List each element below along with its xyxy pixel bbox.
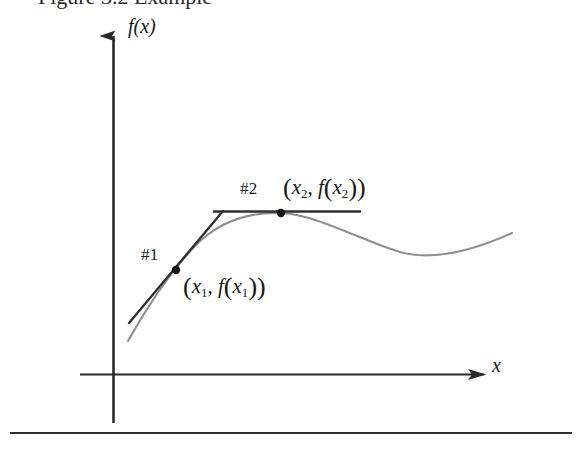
figure-drawing (0, 0, 581, 451)
point-marker-x2 (277, 209, 285, 217)
point-label-2: (x2, f(x2)) (283, 173, 366, 199)
point-label-1: (x1, f(x1)) (183, 272, 266, 298)
y-axis-label: f(x) (128, 16, 156, 36)
annotation-tag-2: #2 (240, 180, 257, 197)
x-axis-label: x (492, 355, 501, 375)
figure-container: Figure 3.2 Example f(x) x (0, 0, 581, 451)
annotation-tag-1: #1 (141, 246, 158, 263)
point-marker-x1 (172, 266, 180, 274)
